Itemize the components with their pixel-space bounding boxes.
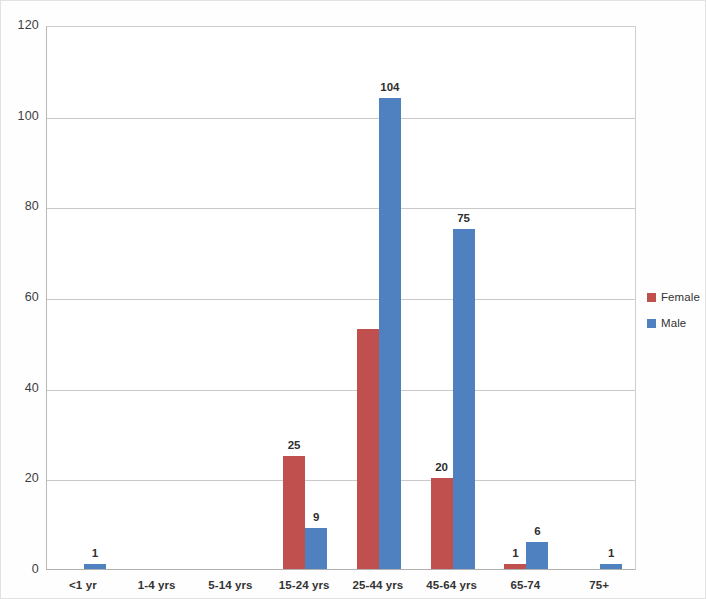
bar-female-6[interactable] [504, 564, 526, 569]
y-axis-tick-label: 20 [1, 471, 39, 485]
gridline [47, 208, 635, 209]
legend-swatch-icon [647, 319, 656, 328]
gridline [47, 118, 635, 119]
bar-value-label: 75 [444, 212, 484, 224]
legend-item-female[interactable]: Female [647, 287, 705, 307]
bar-value-label: 6 [517, 525, 557, 537]
bar-female-4[interactable] [357, 329, 379, 569]
x-axis-tick-label: <1 yr [46, 579, 120, 591]
x-axis-tick-label: 65-74 [489, 579, 563, 591]
y-axis-tick-label: 40 [1, 381, 39, 395]
gridline [47, 299, 635, 300]
y-axis-tick-label: 80 [1, 199, 39, 213]
legend-label: Female [661, 291, 700, 303]
chart-legend: FemaleMale [647, 287, 705, 339]
x-axis-tick-label: 15-24 yrs [267, 579, 341, 591]
bar-male-0[interactable] [84, 564, 106, 569]
legend-item-male[interactable]: Male [647, 313, 705, 333]
bar-male-7[interactable] [600, 564, 622, 569]
bar-male-6[interactable] [526, 542, 548, 569]
y-axis-tick-label: 120 [1, 18, 39, 32]
bar-male-5[interactable] [453, 229, 475, 569]
y-axis-tick-label: 60 [1, 290, 39, 304]
bar-value-label: 1 [75, 547, 115, 559]
bar-value-label: 25 [274, 439, 314, 451]
legend-label: Male [661, 317, 686, 329]
x-axis-tick-label: 45-64 yrs [415, 579, 489, 591]
bar-female-5[interactable] [431, 478, 453, 569]
y-axis-tick-label: 0 [1, 562, 39, 576]
x-axis-tick-label: 75+ [562, 579, 636, 591]
bar-male-4[interactable] [379, 98, 401, 569]
y-axis: 020406080100120 [1, 1, 46, 599]
bar-value-label: 1 [591, 547, 631, 559]
gridline [47, 390, 635, 391]
y-axis-tick-label: 100 [1, 109, 39, 123]
bar-value-label: 104 [370, 81, 410, 93]
x-axis-tick-label: 1-4 yrs [120, 579, 194, 591]
x-axis-tick-label: 5-14 yrs [194, 579, 268, 591]
bar-male-3[interactable] [305, 528, 327, 569]
legend-swatch-icon [647, 293, 656, 302]
gridline [47, 480, 635, 481]
x-axis-tick-label: 25-44 yrs [341, 579, 415, 591]
x-axis: <1 yr1-4 yrs5-14 yrs15-24 yrs25-44 yrs45… [46, 571, 636, 599]
bar-chart: 020406080100120 12591042075161 <1 yr1-4 … [0, 0, 706, 599]
plot-area: 12591042075161 [46, 26, 636, 570]
bar-value-label: 9 [296, 511, 336, 523]
